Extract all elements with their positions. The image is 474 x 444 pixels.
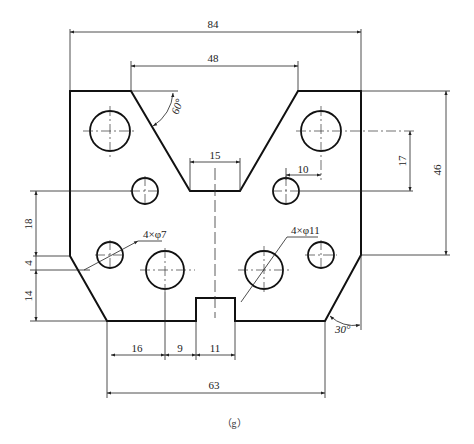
part-outline	[70, 91, 361, 321]
part-drawing: 84 48 60° 15 10 17 46	[0, 0, 474, 444]
dim-v-angle: 60°	[131, 91, 185, 126]
hole-phi11-bottom-right	[238, 246, 292, 292]
hole-phi7-bottom-right	[305, 240, 337, 270]
hole-phi7-bottom-left	[95, 240, 125, 270]
dim-16-label: 16	[132, 342, 144, 354]
dim-63-label: 63	[209, 379, 221, 391]
dim-11-label: 11	[210, 342, 221, 354]
hole-large-top-left	[83, 106, 136, 160]
dim-17-label: 17	[396, 155, 408, 167]
hole-phi11-bottom-left	[140, 248, 195, 292]
hole-small-mid-right	[272, 176, 300, 207]
dim-4-label: 4	[22, 260, 34, 266]
dim-14-label: 14	[22, 290, 34, 302]
leader-large-holes: 4×φ11	[241, 224, 320, 302]
dim-15-label: 15	[210, 149, 222, 161]
dim-left-stack: 18 4 14	[22, 191, 132, 321]
dim-hole-offset-y: 17	[300, 131, 413, 191]
leader-small-holes: 4×φ7	[84, 228, 167, 270]
dim-bottom-width: 63	[107, 321, 325, 398]
large-holes-label: 4×φ11	[291, 224, 320, 236]
hole-small-mid-left	[130, 176, 160, 207]
figure-caption: （g）	[222, 418, 247, 429]
dim-60-label: 60°	[169, 97, 186, 116]
dim-30-label: 30°	[334, 323, 351, 335]
dim-18-label: 18	[22, 218, 34, 230]
hole-large-top-right	[296, 106, 416, 180]
dim-hole-offset-x: 10	[286, 163, 321, 180]
dim-overall-height: 46	[361, 91, 450, 255]
dim-84-label: 84	[208, 18, 220, 30]
dim-48-label: 48	[208, 52, 220, 64]
dim-10-label: 10	[298, 163, 310, 175]
dim-chamfer-angle: 30°	[330, 255, 361, 335]
small-holes-label: 4×φ7	[143, 228, 167, 240]
dim-46-label: 46	[431, 164, 443, 176]
dim-9-label: 9	[177, 342, 183, 354]
dim-v-top-width: 48	[131, 52, 298, 91]
